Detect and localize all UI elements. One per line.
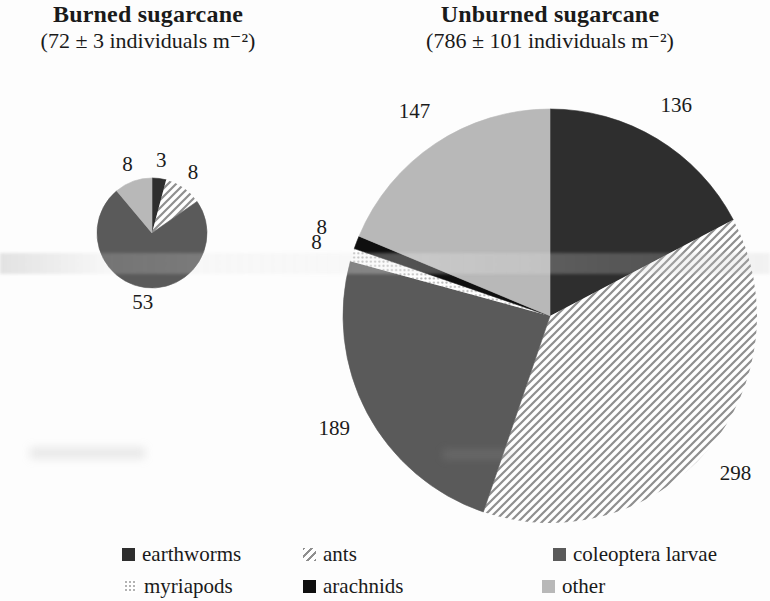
coleoptera-larvae-swatch-icon (553, 548, 566, 561)
unburned-pie-chart: 13629818988147 (311, 93, 757, 523)
pie-charts-canvas: 38538 13629818988147 (0, 0, 770, 601)
ants-swatch-icon (303, 548, 316, 561)
legend-label: coleoptera larvae (573, 542, 717, 567)
legend-label: arachnids (323, 574, 403, 599)
legend-item-coleoptera-larvae: coleoptera larvae (553, 543, 717, 565)
legend-item-ants: ants (303, 543, 357, 565)
slice-label-other: 147 (399, 99, 431, 123)
legend-item-arachnids: arachnids (303, 575, 403, 597)
slice-label-arachnids: 8 (316, 215, 327, 239)
slice-label-coleoptera-larvae: 189 (318, 416, 350, 440)
legend-label: myriapods (144, 574, 233, 599)
legend-label: ants (323, 542, 357, 567)
slice-label-earthworms: 136 (661, 93, 693, 117)
earthworms-swatch-icon (122, 548, 135, 561)
legend-item-earthworms: earthworms (122, 543, 241, 565)
figure: Burned sugarcane (72 ± 3 individuals m⁻²… (0, 0, 770, 601)
myriapods-swatch-icon (124, 580, 137, 593)
slice-label-coleoptera-larvae: 53 (132, 290, 153, 314)
slice-label-earthworms: 3 (156, 148, 167, 172)
legend-label: other (562, 574, 605, 599)
legend-label: earthworms (142, 542, 241, 567)
slice-label-ants: 298 (720, 461, 752, 485)
arachnids-swatch-icon (303, 580, 316, 593)
other-swatch-icon (542, 580, 555, 593)
slice-label-ants: 8 (188, 160, 199, 184)
legend-item-other: other (542, 575, 605, 597)
burned-pie-chart: 38538 (97, 148, 207, 314)
slice-label-other: 8 (122, 152, 133, 176)
legend-item-myriapods: myriapods (124, 575, 233, 597)
